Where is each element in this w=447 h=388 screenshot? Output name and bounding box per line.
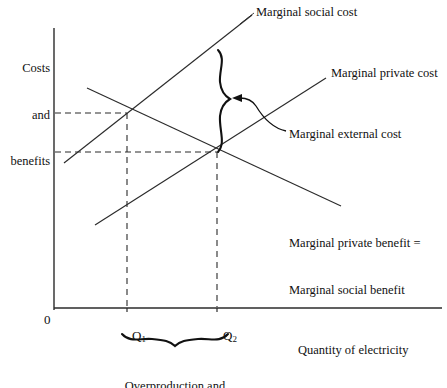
marginal-benefit-label-line-1: Marginal private benefit = — [289, 236, 444, 252]
marginal-private-cost-label: Marginal private cost — [331, 66, 438, 81]
q1-axis-label-subscript: 1 — [141, 334, 146, 344]
q2-axis-label-text: Q — [223, 328, 232, 343]
marginal-benefit-curve — [87, 88, 341, 206]
overproduction-caption-line-1: Overproduction and — [95, 379, 255, 388]
externality-diagram: Costs and benefits Marginal social cost … — [0, 0, 447, 388]
x-axis-title: Quantity of electricity sold in the mark… — [298, 312, 447, 388]
marginal-external-cost-arrowhead — [232, 94, 242, 102]
marginal-social-cost-curve — [64, 15, 252, 163]
marginal-social-cost-leader — [240, 13, 254, 24]
y-axis-title-line-2: and — [2, 108, 50, 124]
marginal-external-cost-arrow — [240, 98, 286, 131]
overproduction-caption: Overproduction and overconsumption — [95, 348, 255, 388]
q1-axis-label-text: Q — [132, 328, 141, 343]
y-axis-title-line-3: benefits — [2, 154, 50, 170]
marginal-benefit-label: Marginal private benefit = Marginal soci… — [289, 205, 444, 329]
marginal-external-cost-label: Marginal external cost — [289, 127, 401, 142]
y-axis-title: Costs and benefits — [2, 30, 50, 201]
y-axis-title-line-1: Costs — [2, 61, 50, 77]
marginal-benefit-label-line-2: Marginal social benefit — [289, 283, 444, 299]
origin-label: 0 — [44, 312, 51, 328]
x-axis-title-line-1: Quantity of electricity — [298, 343, 447, 359]
marginal-external-cost-brace — [218, 50, 230, 152]
marginal-social-cost-label: Marginal social cost — [256, 5, 357, 20]
q2-axis-label-subscript: 2 — [232, 334, 237, 344]
